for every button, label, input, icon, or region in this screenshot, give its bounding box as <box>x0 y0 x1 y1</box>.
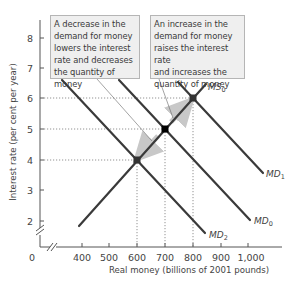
x-tick-labels: 0 400 500 600 700 800 900 1,000 <box>29 252 265 263</box>
leader-decrease <box>97 79 152 141</box>
y-tick-labels: 8 7 6 5 4 3 2 <box>27 33 33 227</box>
arrow-down-along-ms <box>143 136 158 152</box>
x-tick-500: 500 <box>100 252 118 263</box>
y-tick-4: 4 <box>27 155 33 166</box>
y-tick-3: 3 <box>27 185 33 196</box>
origin-label: 0 <box>29 252 35 263</box>
note-increase-demand: An increase in the demand for money rais… <box>150 15 245 79</box>
y-tick-7: 7 <box>27 63 33 74</box>
curves <box>62 80 263 233</box>
md2-label: MD2 <box>209 230 228 242</box>
x-tick-600: 600 <box>128 252 146 263</box>
chart-canvas: 8 7 6 5 4 3 2 0 400 500 600 700 800 900 … <box>0 0 298 283</box>
equilibrium-md1 <box>190 95 197 102</box>
md0-label: MD0 <box>254 216 273 228</box>
equilibrium-md2 <box>134 157 141 164</box>
x-tick-900: 900 <box>212 252 230 263</box>
equilibrium-md0 <box>162 126 169 133</box>
y-tick-8: 8 <box>27 33 33 44</box>
y-tick-2: 2 <box>27 216 33 227</box>
md0-curve <box>119 80 250 220</box>
y-tick-6: 6 <box>27 93 33 104</box>
x-tick-800: 800 <box>184 252 202 263</box>
x-axis-title: Real money (billions of 2001 pounds) <box>109 265 269 275</box>
x-tick-700: 700 <box>156 252 174 263</box>
y-tick-5: 5 <box>27 124 33 135</box>
y-axis-title: Interest rate (per cent per year) <box>8 63 18 201</box>
x-tick-400: 400 <box>73 252 91 263</box>
md1-label: MD1 <box>266 169 285 181</box>
note-decrease-demand: A decrease in the demand for money lower… <box>50 15 140 79</box>
x-tick-1000: 1,000 <box>237 252 264 263</box>
